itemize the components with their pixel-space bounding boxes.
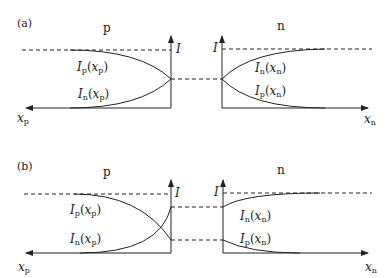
subscript: p bbox=[245, 238, 250, 247]
panel-a-x-axis-label-n: xn bbox=[364, 112, 376, 127]
panel-a-I-label-left: I bbox=[176, 42, 181, 56]
subscript: n bbox=[276, 67, 281, 76]
subscript: p bbox=[91, 209, 96, 218]
subscript: n bbox=[276, 90, 281, 99]
panel-a-region-n: n bbox=[277, 19, 285, 33]
subscript: p bbox=[91, 238, 96, 247]
panel-b-label-Ip-xp: Ip(xp) bbox=[70, 203, 101, 218]
subscript: p bbox=[98, 66, 103, 75]
panel-b-x-axis-label-p: xp bbox=[18, 260, 30, 275]
panel-b-tag: (b) bbox=[17, 160, 33, 173]
subscript: p bbox=[24, 117, 29, 126]
panel-a-label-In-xp: In(xp) bbox=[78, 87, 109, 102]
subscript: n bbox=[245, 215, 250, 224]
subscript: p bbox=[260, 90, 265, 99]
subscript: n bbox=[261, 238, 266, 247]
panel-b-label-In-xn: In(xn) bbox=[240, 209, 271, 224]
panel-a-tag: (a) bbox=[17, 17, 32, 30]
panel-b-label-In-xp: In(xp) bbox=[70, 232, 101, 247]
panel-a-x-axis-label-p: xp bbox=[17, 111, 29, 126]
panel-b-region-n: n bbox=[277, 163, 285, 177]
subscript: n bbox=[372, 266, 377, 275]
panel-b-I-label-right: I bbox=[214, 185, 219, 199]
panel-a-region-p: p bbox=[103, 21, 111, 35]
symbol: x bbox=[18, 260, 25, 274]
panel-b-curve-In-xn bbox=[223, 193, 320, 207]
diagram-canvas bbox=[0, 0, 392, 278]
panel-a-label-In-xn: In(xn) bbox=[255, 61, 286, 76]
panel-a-graphics bbox=[22, 36, 372, 108]
subscript: p bbox=[75, 209, 80, 218]
panel-b-x-axis-label-n: xn bbox=[365, 260, 377, 275]
panel-a-label-Ip-xn: Ip(xn) bbox=[255, 84, 286, 99]
subscript: p bbox=[99, 93, 104, 102]
symbol: x bbox=[364, 112, 371, 126]
panel-b-I-label-left: I bbox=[175, 186, 180, 200]
subscript: n bbox=[83, 93, 88, 102]
symbol: x bbox=[365, 260, 372, 274]
subscript: n bbox=[75, 238, 80, 247]
subscript: n bbox=[261, 215, 266, 224]
subscript: n bbox=[371, 118, 376, 127]
panel-b-label-Ip-xn: Ip(xn) bbox=[240, 232, 271, 247]
subscript: p bbox=[25, 266, 30, 275]
symbol: x bbox=[17, 111, 24, 125]
panel-a-label-Ip-xp: Ip(xp) bbox=[77, 60, 108, 75]
subscript: p bbox=[82, 66, 87, 75]
panel-b-region-p: p bbox=[103, 165, 111, 179]
subscript: n bbox=[260, 67, 265, 76]
panel-a-I-label-right: I bbox=[213, 41, 218, 55]
